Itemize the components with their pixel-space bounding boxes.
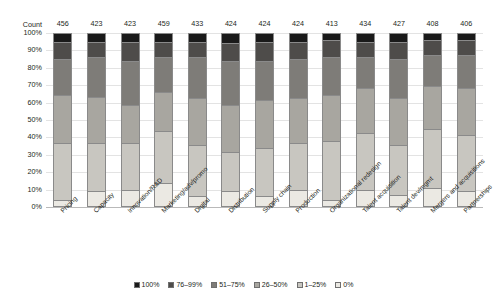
bar-segment[interactable]: [88, 58, 105, 98]
y-axis-tick-40: 40%: [28, 134, 42, 141]
legend-label: 1–25%: [305, 281, 327, 288]
bar-segment[interactable]: [357, 58, 374, 89]
bar-column[interactable]: 423: [87, 33, 106, 207]
bar-segment[interactable]: [424, 56, 441, 87]
stacked-bar[interactable]: [289, 33, 308, 207]
bar-count-value: 433: [191, 20, 203, 27]
bar-segment[interactable]: [458, 41, 475, 56]
stacked-bar[interactable]: [322, 33, 341, 207]
y-axis-tick-90: 90%: [28, 47, 42, 54]
bar-segment[interactable]: [122, 106, 139, 144]
bar-count-value: 408: [427, 20, 439, 27]
y-axis-tick-20: 20%: [28, 169, 42, 176]
bar-segment[interactable]: [390, 34, 407, 43]
stacked-bar[interactable]: [221, 33, 240, 207]
bar-segment[interactable]: [323, 96, 340, 142]
bar-column[interactable]: 424: [289, 33, 308, 207]
bar-segment[interactable]: [357, 34, 374, 43]
bar-segment[interactable]: [357, 43, 374, 58]
bar-segment[interactable]: [189, 99, 206, 145]
chart-legend: 100%76–99%51–75%26–50%1–25%0%: [0, 281, 487, 288]
bar-segment[interactable]: [189, 58, 206, 99]
y-axis-tick-100: 100%: [24, 29, 42, 36]
bar-segment[interactable]: [458, 56, 475, 89]
bar-segment[interactable]: [88, 34, 105, 43]
bar-segment[interactable]: [256, 149, 273, 197]
bar-segment[interactable]: [155, 93, 172, 133]
bar-segment[interactable]: [222, 153, 239, 193]
bar-segment[interactable]: [290, 43, 307, 60]
bar-segment[interactable]: [122, 34, 139, 43]
bar-segment[interactable]: [290, 99, 307, 144]
bar-segment[interactable]: [256, 101, 273, 149]
legend-item[interactable]: 1–25%: [297, 281, 327, 288]
bar-segment[interactable]: [424, 34, 441, 41]
stacked-bar[interactable]: [53, 33, 72, 207]
bar-segment[interactable]: [290, 144, 307, 190]
bar-segment[interactable]: [357, 89, 374, 134]
stacked-bar[interactable]: [255, 33, 274, 207]
plot-area: 456423423459433424424424413434427408406: [46, 33, 483, 207]
bar-column[interactable]: 423: [121, 33, 140, 207]
legend-swatch-icon: [168, 282, 174, 288]
bar-segment[interactable]: [122, 43, 139, 62]
bar-segment[interactable]: [424, 87, 441, 130]
bar-column[interactable]: 424: [221, 33, 240, 207]
bar-segment[interactable]: [458, 89, 475, 135]
y-axis-tick-10: 10%: [28, 186, 42, 193]
legend-item[interactable]: 51–75%: [211, 281, 245, 288]
bar-count-value: 434: [359, 20, 371, 27]
y-axis-tick-60: 60%: [28, 99, 42, 106]
bar-segment[interactable]: [323, 41, 340, 58]
bar-segment[interactable]: [390, 146, 407, 196]
bar-segment[interactable]: [290, 60, 307, 100]
bar-column[interactable]: 424: [255, 33, 274, 207]
bar-column[interactable]: 413: [322, 33, 341, 207]
y-axis-tick-0: 0%: [32, 203, 42, 210]
bar-segment[interactable]: [222, 62, 239, 107]
bar-segment[interactable]: [88, 98, 105, 144]
bar-segment[interactable]: [155, 43, 172, 58]
bar-segment[interactable]: [88, 43, 105, 58]
bar-segment[interactable]: [323, 142, 340, 200]
bar-segment[interactable]: [424, 41, 441, 56]
bar-segment[interactable]: [390, 43, 407, 60]
bar-segment[interactable]: [256, 43, 273, 62]
bar-segment[interactable]: [54, 43, 71, 60]
bar-segment[interactable]: [222, 106, 239, 152]
bar-segment[interactable]: [323, 58, 340, 96]
bar-segment[interactable]: [122, 144, 139, 190]
bar-segment[interactable]: [256, 62, 273, 102]
bar-segment[interactable]: [54, 96, 71, 144]
bar-segment[interactable]: [155, 58, 172, 92]
bar-segment[interactable]: [458, 34, 475, 41]
bar-segment[interactable]: [54, 144, 71, 201]
y-axis-tick-50: 50%: [28, 116, 42, 123]
bar-segment[interactable]: [290, 34, 307, 43]
legend-item[interactable]: 100%: [134, 281, 160, 288]
bar-segment[interactable]: [189, 34, 206, 43]
legend-label: 51–75%: [219, 281, 245, 288]
bar-segment[interactable]: [88, 144, 105, 192]
legend-item[interactable]: 0%: [335, 281, 353, 288]
legend-item[interactable]: 26–50%: [254, 281, 288, 288]
bar-segment[interactable]: [222, 44, 239, 61]
bar-count-value: 406: [460, 20, 472, 27]
legend-label: 0%: [343, 281, 353, 288]
bar-segment[interactable]: [54, 34, 71, 43]
y-axis-tick-80: 80%: [28, 64, 42, 71]
bar-segment[interactable]: [54, 60, 71, 96]
bar-column[interactable]: 456: [53, 33, 72, 207]
legend-item[interactable]: 76–99%: [168, 281, 202, 288]
bar-segment[interactable]: [122, 62, 139, 107]
stacked-bar[interactable]: [87, 33, 106, 207]
bar-segment[interactable]: [222, 34, 239, 44]
stacked-bar[interactable]: [121, 33, 140, 207]
bar-segment[interactable]: [256, 34, 273, 43]
bar-segment[interactable]: [390, 60, 407, 100]
bar-segment[interactable]: [323, 34, 340, 41]
bar-segment[interactable]: [155, 34, 172, 43]
bar-segment[interactable]: [390, 99, 407, 145]
bar-segment[interactable]: [189, 43, 206, 58]
